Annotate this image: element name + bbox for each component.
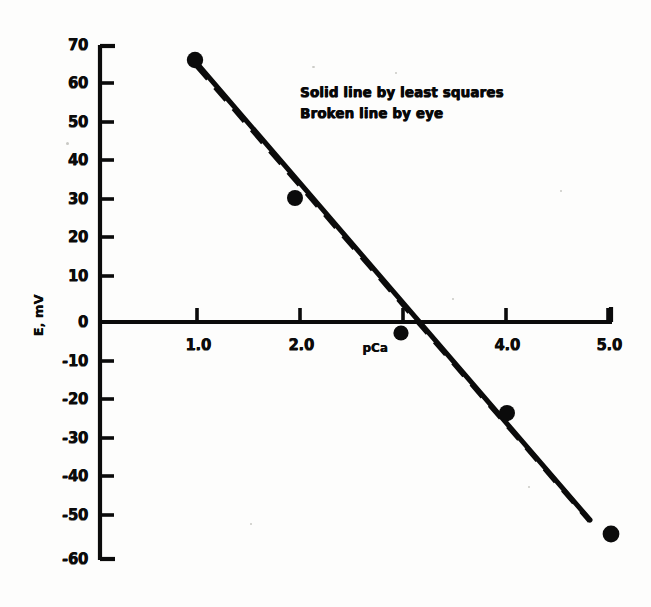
y-tick-label: 30	[44, 190, 88, 208]
y-tick-label: 50	[44, 113, 88, 131]
y-tick-label: -60	[38, 550, 88, 568]
annotation-line-broken: Broken line by eye	[300, 103, 504, 124]
data-point	[499, 405, 515, 421]
x-tick-label: 1.0	[185, 336, 211, 354]
x-axis	[100, 307, 612, 322]
data-point	[187, 52, 203, 68]
x-tick-label: 5.0	[596, 336, 622, 354]
y-tick-label: 0	[44, 313, 88, 331]
data-point	[287, 190, 303, 206]
y-tick-label: 40	[44, 151, 88, 169]
y-tick-label: -40	[38, 467, 88, 485]
x-tick-label: 4.0	[494, 336, 520, 354]
chart-annotation: Solid line by least squares Broken line …	[300, 82, 504, 124]
x-axis-label: pCa	[362, 341, 388, 355]
y-tick-label: -20	[38, 390, 88, 408]
y-axis	[100, 45, 115, 560]
y-axis-label: E, mV	[31, 286, 46, 346]
y-tick-label: 20	[44, 228, 88, 246]
data-point	[603, 526, 620, 543]
series-solid-line-least-squares	[194, 60, 590, 520]
chart-figure: 70 60 50 40 30 20 10 0 -10 -20 -30 -40 -…	[0, 0, 651, 607]
y-tick-label: 60	[44, 74, 88, 92]
annotation-line-solid: Solid line by least squares	[300, 82, 504, 103]
x-tick-label: 2.0	[288, 336, 314, 354]
y-tick-label: 70	[44, 36, 88, 54]
y-tick-label: -10	[38, 352, 88, 370]
y-tick-label: -50	[38, 506, 88, 524]
y-tick-label: 10	[44, 267, 88, 285]
y-tick-label: -30	[38, 429, 88, 447]
